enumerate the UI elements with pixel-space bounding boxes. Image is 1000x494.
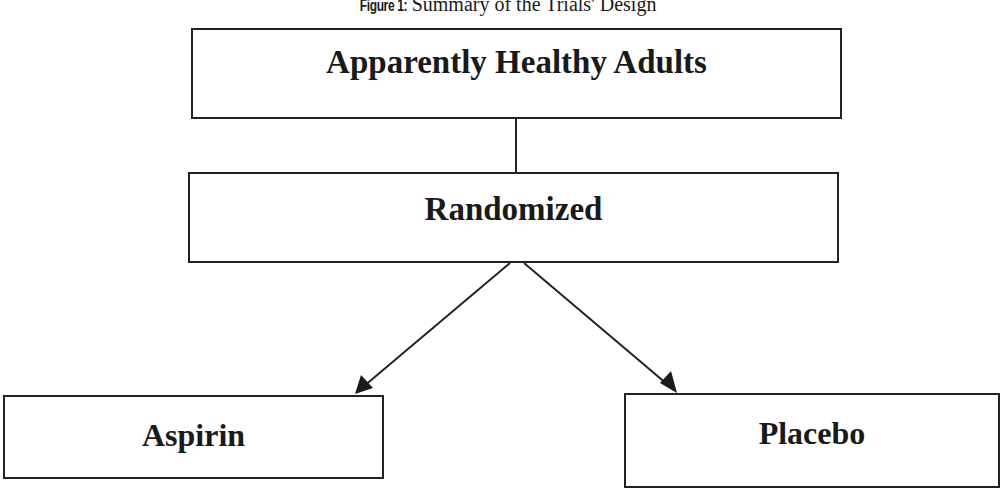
node-label: Placebo [759,415,866,486]
figure-caption-label: Figure 1: [359,0,406,16]
node-placebo: Placebo [624,393,1000,488]
figure-caption-text: Summary of the Trials' Design [407,0,657,15]
node-apparently-healthy-adults: Apparently Healthy Adults [191,28,842,119]
figure-caption: Figure 1: Summary of the Trials' Design [0,0,1000,16]
node-label: Aspirin [142,417,245,477]
arrowhead-aspirin-icon [355,375,373,394]
node-label: Apparently Healthy Adults [326,44,707,117]
arrowhead-placebo-icon [660,371,677,393]
node-aspirin: Aspirin [3,395,384,479]
arrow-randomized-to-aspirin [357,263,510,392]
node-label: Randomized [425,191,603,261]
arrow-randomized-to-placebo [524,263,674,390]
node-randomized: Randomized [188,172,839,263]
